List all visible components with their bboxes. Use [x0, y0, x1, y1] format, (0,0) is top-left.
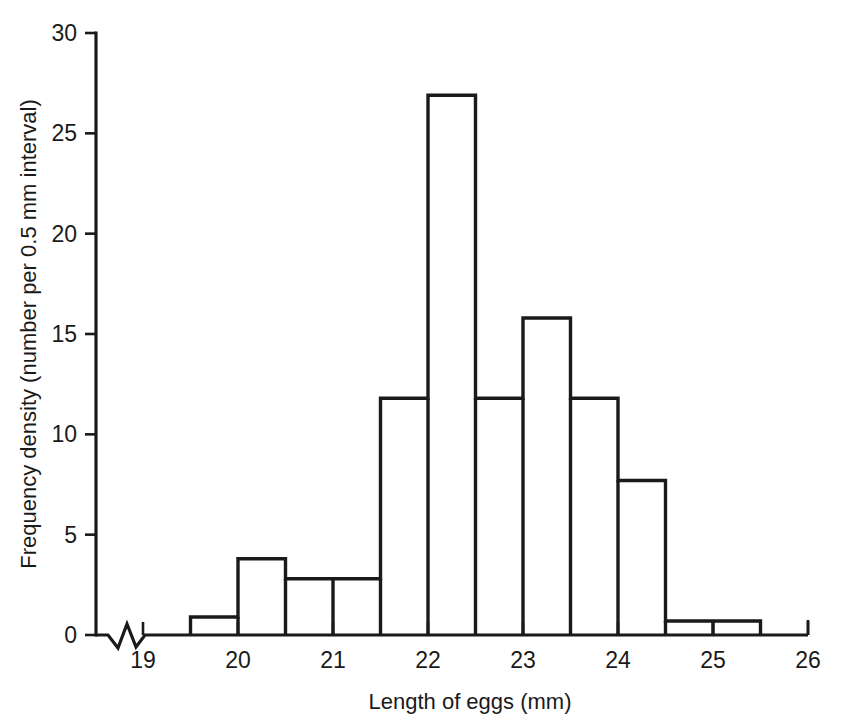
y-tick-label-30: 30 — [51, 20, 77, 46]
x-tick-label-24: 24 — [605, 647, 631, 673]
y-tick-label-25: 25 — [51, 120, 77, 146]
x-tick-label-22: 22 — [415, 647, 441, 673]
y-tick-label-15: 15 — [51, 321, 77, 347]
histogram-plot: 0510152025301920212223242526 Length of e… — [0, 0, 859, 724]
histogram-figure: 0510152025301920212223242526 Length of e… — [0, 0, 859, 724]
y-tick-label-20: 20 — [51, 221, 77, 247]
x-tick-label-20: 20 — [225, 647, 251, 673]
x-tick-label-23: 23 — [510, 647, 536, 673]
x-tick-label-21: 21 — [320, 647, 346, 673]
y-tick-label-5: 5 — [64, 522, 77, 548]
x-axis-title: Length of eggs (mm) — [369, 689, 572, 714]
x-tick-label-25: 25 — [700, 647, 726, 673]
y-axis-title: Frequency density (number per 0.5 mm int… — [16, 99, 41, 569]
x-tick-label-19: 19 — [130, 647, 156, 673]
x-tick-label-26: 26 — [795, 647, 821, 673]
y-tick-label-0: 0 — [64, 622, 77, 648]
y-tick-label-10: 10 — [51, 421, 77, 447]
